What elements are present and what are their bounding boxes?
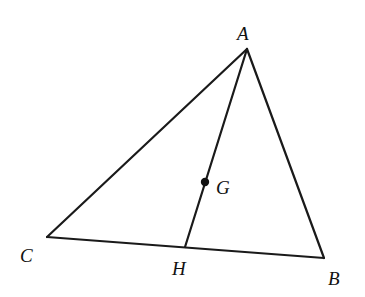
label-c: C (20, 245, 33, 266)
label-b: B (328, 268, 340, 289)
label-a: A (235, 23, 249, 44)
triangle-diagram: A B C H G (0, 0, 365, 297)
label-g: G (216, 177, 230, 198)
label-h: H (171, 258, 187, 279)
triangle-segments (47, 49, 324, 258)
segment-ab (247, 49, 324, 258)
vertex-labels: A B C H G (20, 23, 340, 289)
centroid-point-g (201, 178, 209, 186)
